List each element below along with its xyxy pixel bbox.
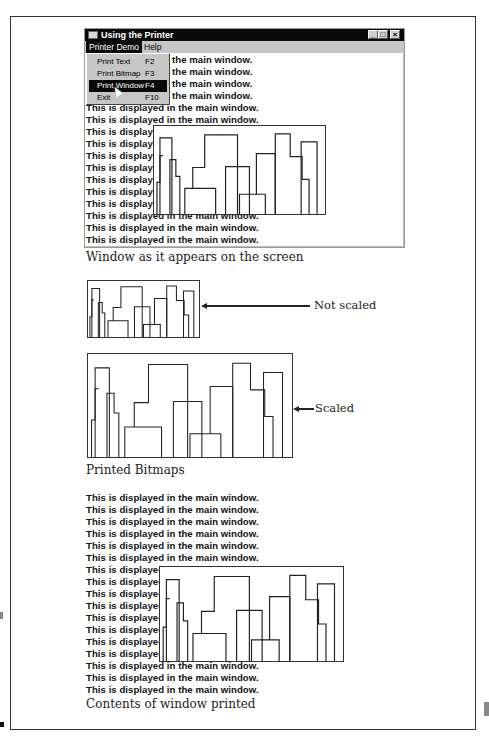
margin-marker xyxy=(484,702,489,716)
menu-item-exit[interactable]: Exit F10 xyxy=(89,92,167,104)
margin-marker xyxy=(0,612,3,619)
text-line: This is displayed in the main window. xyxy=(86,222,259,234)
maximize-button[interactable]: □ xyxy=(378,30,388,39)
text-line: This is displayed in the main window. xyxy=(86,684,259,696)
close-button[interactable]: × xyxy=(390,30,400,39)
text-line: This is displayed in the main window. xyxy=(86,234,259,246)
bitmap-scaled xyxy=(87,353,293,458)
margin-marker xyxy=(0,722,4,727)
minimize-button[interactable]: _ xyxy=(368,30,378,39)
menu-item-print-bitmap[interactable]: Print Bitmap F3 xyxy=(89,68,167,80)
caption-screen: Window as it appears on the screen xyxy=(86,250,304,264)
menu-bar: Printer Demo Help xyxy=(85,41,404,53)
text-line: This is displayed in the main window. xyxy=(86,516,259,528)
skyline-bitmap xyxy=(153,125,326,215)
text-line: This is displayed in the main window. xyxy=(86,672,259,684)
caption-contents-printed: Contents of window printed xyxy=(86,697,255,711)
printed-window-bitmap xyxy=(159,566,344,662)
arrow-line xyxy=(298,408,314,410)
label-not-scaled: Not scaled xyxy=(314,298,376,312)
text-line: This is displayed in the main window. xyxy=(86,492,259,504)
caption-printed-bitmaps: Printed Bitmaps xyxy=(86,463,185,477)
menu-item-print-window[interactable]: Print Window F4 xyxy=(89,80,167,92)
menu-help[interactable]: Help xyxy=(141,41,164,53)
text-line: This is displayed in the main window. xyxy=(86,504,259,516)
arrow-line xyxy=(206,305,310,307)
menu-item-print-text[interactable]: Print Text F2 xyxy=(89,56,167,68)
title-bar[interactable]: Using the Printer _ □ × xyxy=(85,29,404,41)
app-window: Using the Printer _ □ × Printer Demo Hel… xyxy=(84,28,405,248)
text-line: This is displayed in the main window. xyxy=(86,540,259,552)
window-title: Using the Printer xyxy=(101,29,174,41)
menu-printer-demo[interactable]: Printer Demo xyxy=(86,41,142,53)
printer-demo-menu: Print Text F2 Print Bitmap F3 Print Wind… xyxy=(86,53,170,105)
text-line: This is displayed in the main window. xyxy=(86,552,259,564)
label-scaled: Scaled xyxy=(315,401,354,415)
text-line: This is displayed in the main window. xyxy=(86,528,259,540)
bitmap-not-scaled xyxy=(87,280,200,338)
window-icon[interactable] xyxy=(88,31,98,39)
